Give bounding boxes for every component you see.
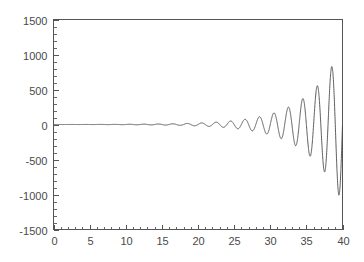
y-tick-label: -1000 [19,190,47,202]
x-tick-label: 5 [87,235,93,247]
y-tick-label: 0 [41,120,47,132]
y-tick-label: 500 [29,85,47,97]
x-tick-label: 35 [300,235,312,247]
x-tick-label: 10 [120,235,132,247]
y-tick-label: 1500 [23,15,47,27]
x-tick-label: 25 [228,235,240,247]
x-tick-label: 20 [192,235,204,247]
x-tick-label: 15 [156,235,168,247]
x-tick-label: 30 [264,235,276,247]
x-tick-label: 0 [51,235,57,247]
y-tick-label: -500 [25,155,47,167]
chart-figure: -1500-1000-500050010001500 0510152025303… [0,0,364,262]
chart-background [0,0,364,262]
x-tick-label: 40 [337,235,349,247]
y-tick-label: -1500 [19,225,47,237]
y-tick-label: 1000 [23,50,47,62]
oscillation-line-chart: -1500-1000-500050010001500 0510152025303… [0,0,364,262]
